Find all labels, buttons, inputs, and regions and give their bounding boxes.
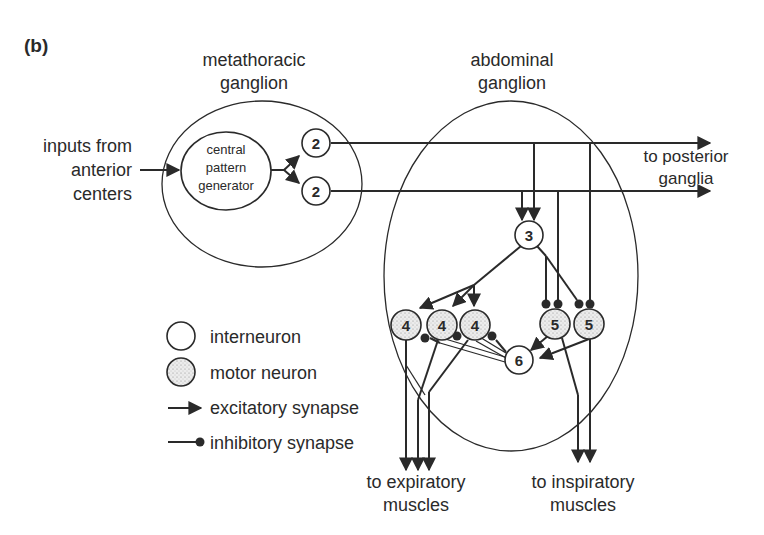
cpg-label-3: generator (198, 178, 254, 193)
abdominal-label-2: ganglion (478, 73, 546, 93)
expiratory-label-2: muscles (383, 495, 449, 515)
legend-excitatory-label: excitatory synapse (210, 398, 359, 418)
motor-neuron-4b-label: 4 (438, 317, 447, 334)
legend-interneuron-icon (167, 322, 195, 350)
cpg-to-2a-arrow (284, 156, 299, 170)
cpg-label-2: pattern (206, 160, 246, 175)
motor-neuron-4a-label: 4 (402, 317, 411, 334)
3-to-4b-excitatory (453, 285, 474, 306)
cpg-to-2b-arrow (284, 170, 299, 183)
motor-neuron-5a-label: 5 (551, 316, 559, 333)
metathoracic-label-2: ganglion (220, 73, 288, 93)
inputs-label-1: inputs from (43, 136, 132, 156)
legend: interneuron motor neuron excitatory syna… (167, 322, 359, 453)
legend-inhibitory-label: inhibitory synapse (210, 433, 354, 453)
expiratory-label-1: to expiratory (366, 472, 465, 492)
5a-to-6-excitatory (531, 336, 548, 350)
motor-neuron-4c-label: 4 (471, 317, 480, 334)
legend-motor-neuron-label: motor neuron (210, 363, 317, 383)
inhibitory-terminal (421, 334, 430, 343)
motor-neuron-5b-label: 5 (585, 316, 593, 333)
interneuron-6-label: 6 (515, 352, 523, 369)
inhibitory-terminal (488, 332, 497, 341)
inputs-label-2: anterior (71, 160, 132, 180)
panel-label: (b) (24, 35, 48, 56)
3-to-4a-excitatory (420, 285, 474, 308)
4b-axon (418, 340, 438, 400)
inspiratory-label-1: to inspiratory (531, 472, 634, 492)
cpg-label-1: central (206, 142, 245, 157)
legend-inhibitory-dot (196, 438, 205, 447)
3-to-5b-inhibitory (546, 256, 577, 300)
inspiratory-label-2: muscles (550, 495, 616, 515)
posterior-label-2: ganglia (659, 169, 714, 188)
legend-interneuron-label: interneuron (210, 327, 301, 347)
legend-motor-neuron-icon (167, 358, 195, 386)
inhibitory-terminal (575, 300, 584, 309)
inputs-label-3: centers (73, 184, 132, 204)
interneuron-3-label: 3 (525, 227, 533, 244)
3-branch-right (537, 246, 546, 256)
posterior-label-1: to posterior (643, 147, 728, 166)
abdominal-ganglion-outline (384, 101, 638, 451)
neural-circuit-diagram: (b) metathoracic ganglion abdominal gang… (0, 0, 764, 535)
abdominal-label-1: abdominal (470, 50, 553, 70)
3-to-4-trunk (474, 246, 521, 285)
inhibitory-terminal (586, 300, 595, 309)
interneuron-2a-label: 2 (312, 135, 320, 152)
interneuron-2b-label: 2 (312, 183, 320, 200)
metathoracic-label-1: metathoracic (202, 50, 305, 70)
inhibitory-terminal (554, 300, 563, 309)
inhibitory-terminal (542, 300, 551, 309)
